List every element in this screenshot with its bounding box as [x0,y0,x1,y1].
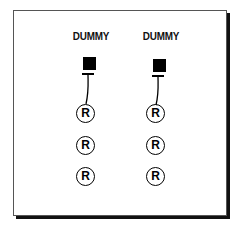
square-terminal-icon [153,59,166,72]
square-terminal-icon [83,57,96,70]
registered-circle-icon: R [76,104,95,123]
registered-circle-icon: R [76,167,95,186]
registered-circle-icon: R [146,136,165,155]
registered-circle-icon: R [76,136,95,155]
wire-icon [81,73,101,105]
registered-circle-icon: R [146,167,165,186]
column-label: DUMMY [64,30,118,42]
registered-circle-icon: R [146,104,165,123]
column-label: DUMMY [134,30,188,42]
diagram-frame: DUMMY R R R DUMMY R R R [13,10,227,216]
wire-icon [151,75,171,107]
